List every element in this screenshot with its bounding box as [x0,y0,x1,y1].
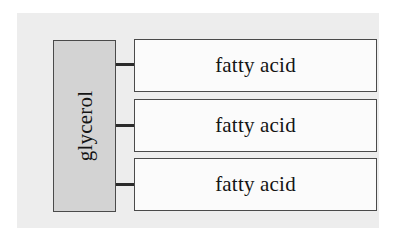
connector-line-2 [116,124,134,127]
connector-line-3 [116,183,134,186]
diagram-panel: glycerol fatty acid fatty acid fatty aci… [17,13,379,228]
fatty-acid-label-2: fatty acid [215,115,296,136]
glycerol-label: glycerol [72,91,97,161]
glycerol-box: glycerol [53,40,116,212]
fatty-acid-box-3: fatty acid [134,158,377,211]
fatty-acid-label-1: fatty acid [215,55,296,76]
fatty-acid-box-2: fatty acid [134,99,377,152]
fatty-acid-box-1: fatty acid [134,39,377,92]
triglyceride-diagram: glycerol fatty acid fatty acid fatty aci… [0,0,399,238]
fatty-acid-label-3: fatty acid [215,174,296,195]
connector-line-1 [116,63,134,66]
